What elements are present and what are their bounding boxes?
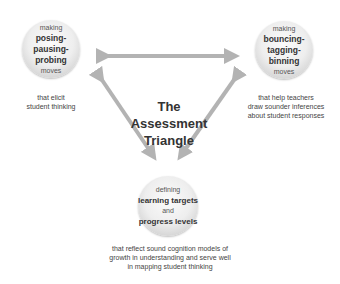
node-bottom-top: defining	[156, 185, 181, 195]
title-line: Assessment	[110, 115, 228, 132]
caption-line: growth in understanding and serve well	[95, 253, 245, 262]
caption-line: that elicit	[6, 93, 96, 102]
node-right-bottom: moves	[274, 67, 295, 77]
title-line: Triangle	[110, 132, 228, 149]
node-bottom-mid: and	[162, 206, 174, 216]
node-left-bottom: moves	[41, 66, 62, 76]
caption-line: student thinking	[6, 102, 96, 111]
node-bottom-caption: that reflect sound cognition models of g…	[95, 244, 245, 271]
node-right-bold: bouncing-	[263, 34, 304, 45]
caption-line: that help teachers	[234, 93, 338, 102]
node-right-top: making	[273, 24, 296, 34]
node-left-top: making	[40, 23, 63, 33]
diagram-title: The Assessment Triangle	[110, 98, 228, 149]
caption-line: that reflect sound cognition models of	[95, 244, 245, 253]
node-bottom-bold: learning targets	[138, 195, 198, 206]
node-left-caption: that elicit student thinking	[6, 93, 96, 111]
title-line: The	[110, 98, 228, 115]
node-right-bold: tagging-	[267, 45, 301, 56]
node-bottom-circle: defining learning targets and progress l…	[138, 176, 198, 236]
node-left-bold: pausing-	[33, 44, 68, 55]
node-left-circle: making posing- pausing- probing moves	[22, 20, 80, 78]
node-left-bold: probing	[35, 55, 67, 66]
node-right-circle: making bouncing- tagging- binning moves	[255, 21, 313, 79]
node-bottom-bold: progress levels	[139, 216, 198, 227]
caption-line: in mapping student thinking	[95, 262, 245, 271]
caption-line: draw sounder inferences	[234, 102, 338, 111]
node-left-bold: posing-	[36, 33, 67, 44]
node-right-caption: that help teachers draw sounder inferenc…	[234, 93, 338, 120]
caption-line: about student responses	[234, 111, 338, 120]
node-right-bold: binning	[269, 56, 300, 67]
